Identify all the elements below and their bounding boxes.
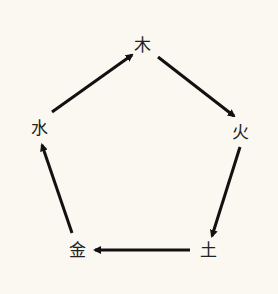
- arrow-wood-to-fire-icon: [158, 57, 234, 116]
- node-wood: 木: [134, 37, 151, 54]
- arrow-metal-to-water-icon: [42, 145, 72, 233]
- arrow-water-to-wood-icon: [52, 55, 132, 112]
- node-water: 水: [31, 120, 48, 137]
- node-fire: 火: [232, 124, 249, 141]
- arrow-group: [42, 55, 240, 250]
- node-earth: 土: [200, 242, 217, 259]
- node-metal: 金: [69, 242, 86, 259]
- arrow-fire-to-earth-icon: [212, 147, 240, 236]
